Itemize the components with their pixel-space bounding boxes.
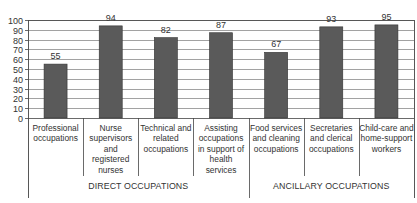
y-tick-label: 60 <box>13 55 23 65</box>
data-label: 93 <box>326 14 336 24</box>
y-tick-label: 80 <box>13 36 23 46</box>
category-label: Secretariesand clericaloccupations <box>304 123 359 154</box>
data-label: 87 <box>216 20 226 30</box>
y-tick-label: 70 <box>13 45 23 55</box>
bar <box>44 64 67 118</box>
y-tick-label: 50 <box>13 65 23 75</box>
category-label: Technical andrelatedoccupations <box>138 123 193 154</box>
bar <box>265 52 288 118</box>
y-tick-label: 100 <box>8 16 23 26</box>
category-label: Child-care andhome-supportworkers <box>359 123 414 154</box>
data-label: 67 <box>271 39 281 49</box>
bar <box>320 27 343 118</box>
bars: 55948287679395 <box>44 12 398 118</box>
category-label: Food servicesand cleaningoccupations <box>249 123 304 154</box>
category-label: Nursesupervisorsandregisterednurses <box>83 123 138 175</box>
data-label: 55 <box>51 51 61 61</box>
bar <box>210 33 233 118</box>
data-label: 94 <box>106 13 116 23</box>
y-tick-label: 10 <box>13 104 23 114</box>
bar <box>99 26 122 118</box>
category-label: Professionaloccupations <box>28 123 83 144</box>
group-label: DIRECT OCCUPATIONS <box>28 181 249 191</box>
y-tick-label: 40 <box>13 75 23 85</box>
category-label: Assistingoccupationsin support ofhealths… <box>193 123 248 175</box>
data-label: 82 <box>161 25 171 35</box>
bar <box>375 25 398 118</box>
y-axis: 0102030405060708090100 <box>8 16 28 124</box>
y-tick-label: 90 <box>13 26 23 36</box>
y-tick-label: 20 <box>13 94 23 104</box>
y-tick-label: 0 <box>18 114 23 124</box>
y-tick-label: 30 <box>13 85 23 95</box>
group-label: ANCILLARY OCCUPATIONS <box>249 181 414 191</box>
bar <box>154 38 177 118</box>
